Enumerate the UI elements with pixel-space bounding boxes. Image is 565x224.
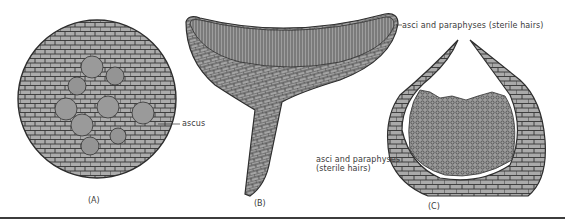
bottom-rule [0, 217, 565, 219]
panel-b-label: (B) [254, 199, 266, 208]
panel-c-asci-label-line2: (sterile hairs) [316, 164, 371, 173]
panel-a-label: (A) [88, 196, 100, 205]
panel-c-label: (C) [428, 202, 440, 211]
figure-illustration [0, 0, 565, 224]
panel-a-drawing [18, 20, 180, 178]
ascus-label: ascus [182, 119, 205, 128]
panel-b-asci-label: asci and paraphyses (sterile hairs) [402, 21, 544, 30]
panel-c-drawing [388, 40, 546, 196]
panel-c-asci-label-line1: asci and paraphyses [316, 155, 400, 164]
